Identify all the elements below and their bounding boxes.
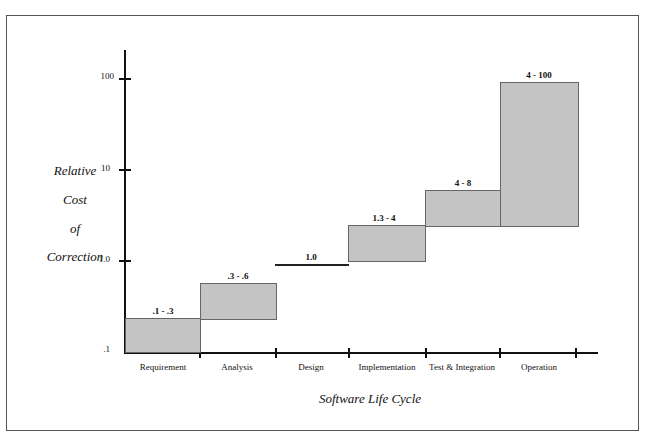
x-tick xyxy=(348,348,350,358)
value-label-requirement: .1 - .3 xyxy=(123,306,203,316)
x-tick xyxy=(499,348,501,358)
range-line-design xyxy=(275,264,349,266)
y-tick-label-0-1: .1 xyxy=(80,344,110,354)
y-tick-10 xyxy=(119,169,131,171)
x-axis-title: Software Life Cycle xyxy=(290,391,450,407)
range-bar-operation xyxy=(500,82,579,227)
value-label-operation: 4 - 100 xyxy=(499,70,579,80)
range-bar-analysis xyxy=(200,283,277,320)
range-bar-requirement xyxy=(125,318,201,353)
y-axis-label-line-2: Cost xyxy=(30,192,120,208)
x-category-test-integration: Test & Integration xyxy=(422,362,502,372)
y-axis-label-line-3: of xyxy=(30,221,120,237)
x-tick xyxy=(275,348,277,358)
y-tick-100 xyxy=(119,78,131,80)
x-tick xyxy=(425,348,427,358)
y-tick-label-1: 1.0 xyxy=(80,254,110,264)
range-bar-implementation xyxy=(348,225,426,262)
value-label-test-integration: 4 - 8 xyxy=(423,178,503,188)
value-label-analysis: .3 - .6 xyxy=(198,271,278,281)
range-bar-test-integration xyxy=(425,190,502,227)
value-label-implementation: 1.3 - 4 xyxy=(344,213,424,223)
y-tick-1 xyxy=(119,260,131,262)
x-category-analysis: Analysis xyxy=(197,362,277,372)
y-tick-label-10: 10 xyxy=(80,163,110,173)
value-label-design: 1.0 xyxy=(271,252,351,262)
x-category-operation: Operation xyxy=(499,362,579,372)
x-category-design: Design xyxy=(271,362,351,372)
y-tick-label-100: 100 xyxy=(84,71,114,81)
x-category-implementation: Implementation xyxy=(347,362,427,372)
x-tick xyxy=(575,348,577,358)
x-category-requirement: Requirement xyxy=(123,362,203,372)
